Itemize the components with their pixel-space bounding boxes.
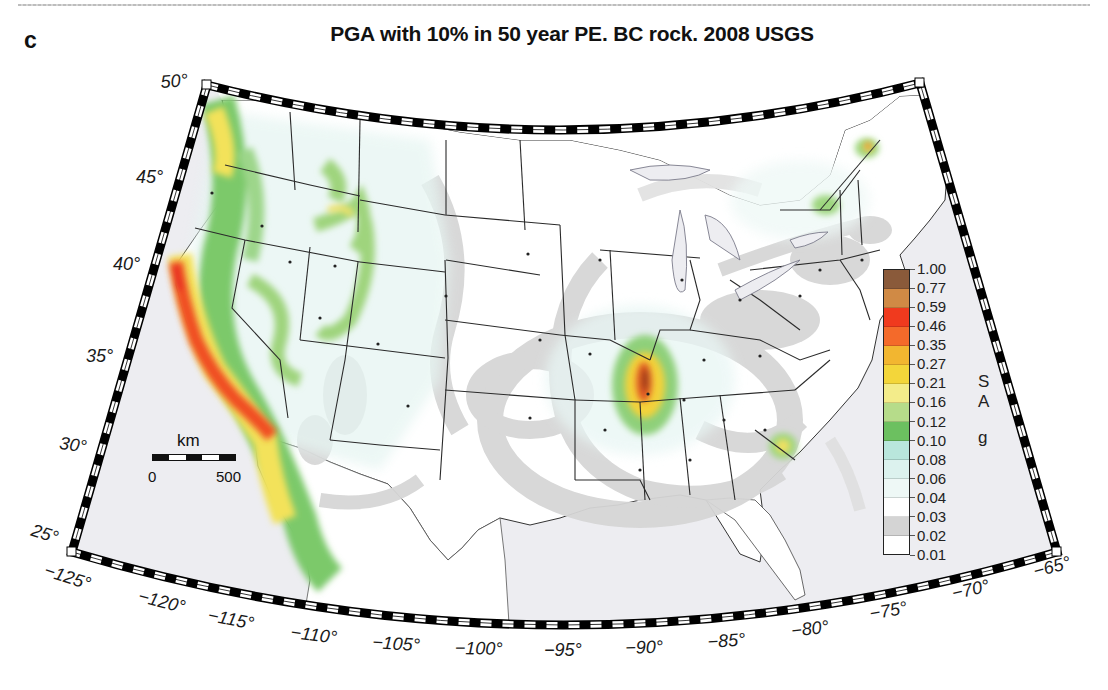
tick-label: 0.01: [917, 547, 946, 563]
colorbar-tick: 0.01: [910, 547, 946, 563]
colorbar-bin: [884, 517, 909, 536]
tick-label: 0.04: [917, 490, 946, 506]
colorbar-tick: 0.27: [910, 356, 946, 372]
tick-label: 0.35: [917, 337, 946, 353]
colorbar-tick: 0.16: [910, 394, 946, 410]
scale-bar-end-label: 500: [216, 468, 241, 485]
tick-mark: [910, 478, 915, 479]
tick-mark: [910, 555, 915, 556]
tick-mark: [910, 364, 915, 365]
tick-label: 1.00: [917, 261, 946, 277]
colorbar-tick: 1.00: [910, 261, 946, 277]
tick-mark: [910, 326, 915, 327]
tick-mark: [910, 497, 915, 498]
colorbar-bin: [884, 308, 909, 327]
tick-label: 0.21: [917, 375, 946, 391]
lon-label-90: −90°: [625, 637, 663, 659]
tick-mark: [910, 535, 915, 536]
tick-mark: [910, 307, 915, 308]
tick-mark: [910, 288, 915, 289]
lat-label-40: 40°: [113, 254, 140, 275]
tick-mark: [910, 516, 915, 517]
colorbar-label-a: A: [978, 392, 989, 412]
colorbar-tick: 0.77: [910, 280, 946, 296]
tick-label: 0.46: [917, 318, 946, 334]
scale-bar-start-label: 0: [148, 468, 156, 485]
colorbar-tick: 0.46: [910, 318, 946, 334]
lon-label-95: −95°: [544, 640, 582, 661]
lon-label-105: −105°: [372, 632, 421, 656]
colorbar-tick: 0.04: [910, 490, 946, 506]
lat-label-50: 50°: [160, 70, 189, 93]
colorbar-bin: [884, 403, 909, 422]
colorbar-bin: [884, 479, 909, 498]
lon-label-100: −100°: [455, 638, 503, 660]
colorbar-tick: 0.08: [910, 452, 946, 468]
lon-label-85: −85°: [707, 629, 746, 653]
colorbar-bin: [884, 346, 909, 365]
colorbar-bin: [884, 365, 909, 384]
colorbar-bin: [884, 327, 909, 346]
colorbar-tick: 0.03: [910, 509, 946, 525]
colorbar-tick: 0.35: [910, 337, 946, 353]
tick-label: 0.77: [917, 280, 946, 296]
tick-label: 0.12: [917, 414, 946, 430]
lat-label-35: 35°: [86, 346, 113, 367]
tick-label: 0.59: [917, 299, 946, 315]
tick-mark: [910, 345, 915, 346]
tick-label: 0.10: [917, 433, 946, 449]
colorbar-bin: [884, 498, 909, 517]
colorbar-bin: [884, 536, 909, 554]
lat-label-45: 45°: [136, 167, 163, 188]
tick-mark: [910, 459, 915, 460]
colorbar-tick: 0.10: [910, 433, 946, 449]
colorbar-tick: 0.59: [910, 299, 946, 315]
colorbar-bin: [884, 441, 909, 460]
tick-mark: [910, 383, 915, 384]
colorbar-tick: 0.02: [910, 528, 946, 544]
lat-label-30: 30°: [58, 433, 88, 458]
colorbar-tick: 0.21: [910, 375, 946, 391]
tick-label: 0.06: [917, 471, 946, 487]
colorbar-bin: [884, 384, 909, 403]
colorbar-bin: [884, 422, 909, 441]
tick-label: 0.08: [917, 452, 946, 468]
colorbar-label-g: g: [978, 428, 987, 448]
colorbar-tick: 0.12: [910, 414, 946, 430]
tick-mark: [910, 269, 915, 270]
colorbar-bin: [884, 270, 909, 289]
colorbar-bin: [884, 460, 909, 479]
tick-label: 0.27: [917, 356, 946, 372]
tick-mark: [910, 402, 915, 403]
tick-label: 0.02: [917, 528, 946, 544]
scale-bar: [152, 454, 236, 461]
tick-mark: [910, 421, 915, 422]
scale-bar-unit: km: [177, 431, 200, 451]
colorbar-bin: [884, 289, 909, 308]
tick-label: 0.03: [917, 509, 946, 525]
colorbar-tick: 0.06: [910, 471, 946, 487]
colorbar-label-s: S: [978, 372, 989, 392]
colorbar: [883, 269, 910, 555]
tick-label: 0.16: [917, 394, 946, 410]
tick-mark: [910, 440, 915, 441]
